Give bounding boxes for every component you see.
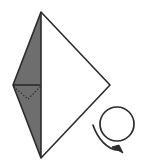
- origami-fold-diagram: [0, 0, 142, 166]
- figure-canvas: [0, 0, 142, 166]
